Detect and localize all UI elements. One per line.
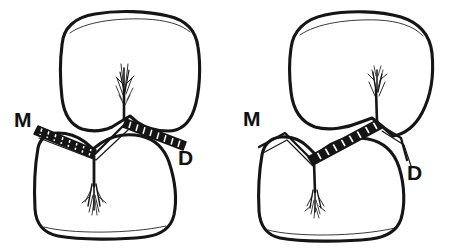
left-panel: M D [0, 0, 235, 251]
lower-tooth-left [35, 133, 176, 239]
distal-label-right: D [407, 161, 422, 184]
upper-tooth-right [290, 12, 433, 136]
upper-tooth-left [61, 12, 200, 131]
mesial-label-right: M [243, 107, 261, 130]
illustration-canvas: M D [0, 0, 470, 251]
right-panel: M D [235, 0, 470, 251]
distal-label-left: D [178, 146, 193, 169]
mesial-label-left: M [14, 108, 32, 131]
